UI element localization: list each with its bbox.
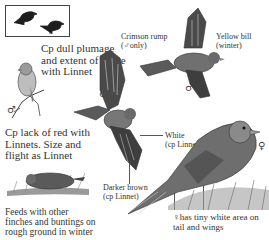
perched-male-bird-illustration: [8, 60, 48, 120]
bird-silhouette-icon: [12, 9, 38, 25]
female-bird-illustration: [128, 110, 269, 215]
feeds-note: Feeds with other finches and buntings on…: [5, 208, 110, 238]
female-note: ♀has tiny white area on tail and wings: [173, 213, 269, 233]
flying-male-bird-top-illustration: [140, 8, 225, 98]
bird-silhouette-icon: [39, 18, 65, 34]
feeding-bird-illustration: [5, 163, 90, 198]
silhouette-box: [5, 5, 70, 37]
